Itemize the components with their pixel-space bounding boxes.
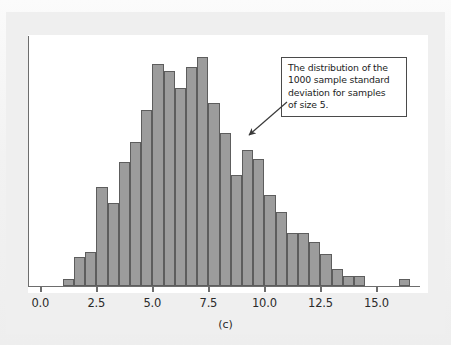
histogram-bar (242, 150, 253, 286)
histogram-bar (108, 203, 119, 286)
histogram-bar (276, 212, 287, 286)
histogram-bar (253, 159, 264, 287)
x-axis-tick-label: 2.5 (87, 296, 105, 310)
figure-caption: (c) (0, 318, 451, 331)
histogram-bar (354, 276, 365, 286)
histogram-bar (264, 195, 275, 287)
histogram-bar (152, 64, 163, 286)
histogram-bar (343, 276, 354, 286)
x-axis-tick-label: 12.5 (308, 296, 333, 310)
histogram-bar (208, 103, 219, 287)
x-axis-ticks (28, 287, 428, 293)
histogram-bar (96, 187, 107, 286)
x-axis-tick (376, 287, 377, 292)
x-axis-tick (320, 287, 321, 292)
histogram-bar (220, 133, 231, 287)
x-axis-tick (40, 287, 41, 292)
annotation-line: deviation for samples (288, 87, 401, 99)
histogram-bar (287, 233, 298, 286)
histogram-bar (141, 110, 152, 286)
annotation-line: The distribution of the (288, 62, 401, 74)
histogram-bar (85, 252, 96, 287)
histogram-bar (309, 242, 320, 287)
figure-screenshot: 0.02.55.07.510.012.515.0 The distributio… (0, 0, 451, 345)
histogram-bar (130, 142, 141, 286)
x-axis-tick-label: 10.0 (252, 296, 277, 310)
histogram-bar (175, 88, 186, 286)
annotation-arrow-icon (240, 96, 288, 142)
annotation-line: 1000 sample standard (288, 74, 401, 86)
histogram-bar (164, 71, 175, 287)
x-axis-tick (208, 287, 209, 292)
histogram-bar (63, 279, 74, 286)
x-axis-tick (152, 287, 153, 292)
histogram-bar (320, 254, 331, 286)
annotation-callout-box: The distribution of the1000 sample stand… (281, 57, 407, 117)
histogram-bar (197, 57, 208, 286)
histogram-bar (119, 162, 130, 286)
annotation-text: The distribution of the1000 sample stand… (288, 62, 401, 112)
histogram-bar (74, 257, 85, 287)
histogram-bar (298, 233, 309, 286)
x-axis-tick-labels: 0.02.55.07.510.012.515.0 (28, 296, 428, 312)
x-axis-tick (264, 287, 265, 292)
x-axis-tick-label: 7.5 (200, 296, 218, 310)
histogram-bar (332, 269, 343, 286)
histogram-bar (399, 279, 410, 286)
x-axis-tick-label: 15.0 (364, 296, 389, 310)
x-axis-tick-label: 0.0 (31, 296, 49, 310)
annotation-line: of size 5. (288, 99, 401, 111)
x-axis-tick (96, 287, 97, 292)
histogram-bar (186, 67, 197, 286)
x-axis-tick-label: 5.0 (144, 296, 162, 310)
histogram-bar (231, 175, 242, 287)
